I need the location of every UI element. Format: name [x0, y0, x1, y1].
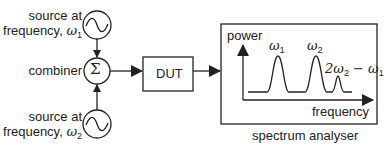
peak-label-1: ω1: [269, 38, 285, 58]
source-2-label: source at frequency, ω2: [3, 109, 82, 144]
source-1-label: source at frequency, ω1: [3, 8, 82, 43]
x-axis-label: frequency: [312, 104, 369, 119]
peak-label-2: ω2: [307, 38, 323, 58]
combiner-label: combiner: [29, 63, 82, 78]
source-1: [83, 11, 111, 39]
y-axis-label: power: [227, 28, 262, 43]
dut-label: DUT: [156, 66, 183, 81]
source-2: [83, 110, 111, 138]
sine-wave-icon: [86, 18, 108, 31]
analyser-caption: spectrum analyser: [252, 128, 358, 143]
peak-label-intermod: 2ω2 − ω1: [325, 61, 384, 81]
sigma-icon: Σ: [90, 62, 101, 77]
sine-wave-icon: [86, 117, 108, 130]
